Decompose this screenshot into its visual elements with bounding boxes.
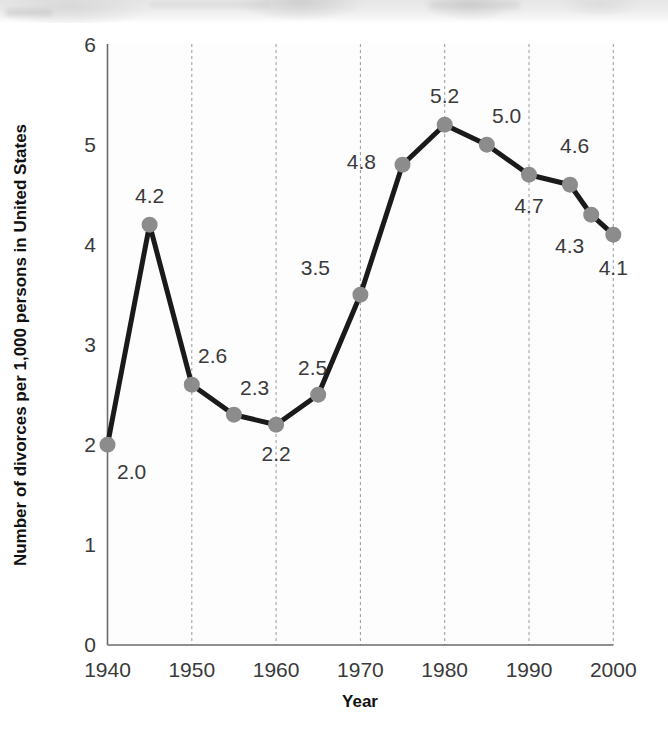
data-label-1975: 4.8 <box>347 150 376 173</box>
data-point-1975[interactable] <box>395 157 411 173</box>
x-tick-1970: 1970 <box>337 658 384 681</box>
data-point-1950[interactable] <box>184 377 200 393</box>
data-label-2001: 4.1 <box>599 256 628 279</box>
data-point-1965[interactable] <box>310 387 326 403</box>
y-tick-2: 2 <box>84 433 96 456</box>
x-tick-1960: 1960 <box>253 658 300 681</box>
x-tick-1940: 1940 <box>84 658 131 681</box>
chart-svg: 6 5 4 3 2 1 0 1940 1950 1960 1970 1980 1… <box>0 23 668 739</box>
data-point-1985[interactable] <box>479 137 495 153</box>
data-point-1955[interactable] <box>226 407 242 423</box>
divorce-rate-line-chart: 6 5 4 3 2 1 0 1940 1950 1960 1970 1980 1… <box>0 23 668 739</box>
data-label-1965: 2.5 <box>298 356 327 379</box>
data-label-1990: 4.7 <box>514 194 543 217</box>
data-label-1940: 2.0 <box>117 460 146 483</box>
y-tick-5: 5 <box>84 133 96 156</box>
data-point-2001[interactable] <box>605 227 621 243</box>
data-label-1985: 5.0 <box>492 104 521 127</box>
x-tick-2000: 2000 <box>590 658 637 681</box>
data-label-1970: 3.5 <box>301 256 330 279</box>
data-label-1960: 2.2 <box>261 442 290 465</box>
x-tick-1980: 1980 <box>421 658 468 681</box>
x-tick-labels: 1940 1950 1960 1970 1980 1990 2000 <box>84 658 637 681</box>
data-label-1945: 4.2 <box>135 184 164 207</box>
x-tick-1950: 1950 <box>168 658 215 681</box>
y-tick-3: 3 <box>84 333 96 356</box>
data-label-1998: 4.3 <box>555 234 584 257</box>
chart-page: 6 5 4 3 2 1 0 1940 1950 1960 1970 1980 1… <box>0 0 668 739</box>
scan-artifact-strip <box>0 0 668 23</box>
y-tick-1: 1 <box>84 533 96 556</box>
y-tick-4: 4 <box>84 233 96 256</box>
data-point-1998[interactable] <box>583 207 599 223</box>
y-tick-6: 6 <box>84 33 96 56</box>
data-label-1955: 2.3 <box>240 376 269 399</box>
x-tick-1990: 1990 <box>506 658 553 681</box>
y-tick-0: 0 <box>84 633 96 656</box>
data-point-1990[interactable] <box>521 167 537 183</box>
data-point-1945[interactable] <box>142 217 158 233</box>
data-point-1980[interactable] <box>437 117 453 133</box>
data-label-1995: 4.6 <box>560 134 589 157</box>
data-point-1960[interactable] <box>268 417 284 433</box>
y-axis-title: Number of divorces per 1,000 persons in … <box>11 124 30 566</box>
data-label-1980: 5.2 <box>430 84 459 107</box>
data-label-1950: 2.6 <box>198 344 227 367</box>
x-axis-title: Year <box>342 692 378 711</box>
data-point-1995[interactable] <box>562 177 578 193</box>
data-point-1940[interactable] <box>100 437 116 453</box>
y-tick-labels: 6 5 4 3 2 1 0 <box>84 33 96 656</box>
data-point-1970[interactable] <box>352 287 368 303</box>
